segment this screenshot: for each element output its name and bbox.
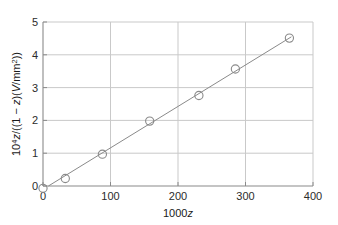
chart-figure: 5 4 3 2 1 0 0 100 200 300 400 100 [0, 0, 338, 225]
y-axis-title-mid1: /((1 − [10, 105, 22, 134]
x-axis-title: 1000z [163, 207, 193, 219]
y-axis-title-tail: )) [10, 52, 22, 59]
x-tick-label-400: 400 [304, 190, 322, 202]
y-tick-label-5: 5 [32, 16, 38, 28]
y-tick-label-1: 1 [32, 147, 38, 159]
x-axis-title-prefix: 1000 [163, 207, 187, 219]
x-tick-label-200: 200 [169, 190, 187, 202]
y-axis-title-mid2: /mm [10, 63, 22, 84]
y-axis-title: 104z/((1 − z)(V/mm2)) [10, 52, 23, 156]
scatter-plot: 5 4 3 2 1 0 0 100 200 300 400 100 [0, 0, 338, 225]
x-tick-labels: 0 100 200 300 400 [40, 190, 322, 202]
y-tick-label-4: 4 [32, 49, 38, 61]
x-tick-label-300: 300 [236, 190, 254, 202]
x-axis-title-variable: z [186, 207, 193, 219]
y-tick-labels: 5 4 3 2 1 0 [32, 16, 38, 192]
y-tick-label-2: 2 [32, 114, 38, 126]
y-tick-label-0: 0 [32, 180, 38, 192]
x-tick-label-100: 100 [101, 190, 119, 202]
y-tick-label-3: 3 [32, 82, 38, 94]
y-axis-title-lead: 10 [10, 144, 22, 156]
